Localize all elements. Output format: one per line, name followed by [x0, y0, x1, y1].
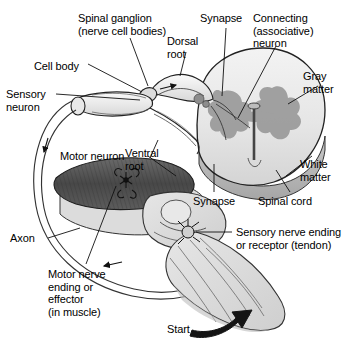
- label-spinal-cord: Spinal cord: [258, 195, 312, 208]
- label-synapse-top: Synapse: [200, 12, 242, 25]
- axon-direction-arrow-2: [104, 262, 122, 266]
- label-ventral-root: Ventral root: [125, 147, 159, 172]
- label-dorsal-root: Dorsal root: [167, 35, 198, 60]
- diagram-canvas: Spinal ganglion (nerve cell bodies) Cell…: [0, 0, 349, 348]
- label-start: Start: [167, 323, 190, 336]
- central-canal-head: [248, 103, 260, 109]
- patella: [161, 200, 191, 224]
- label-spinal-ganglion: Spinal ganglion (nerve cell bodies): [78, 12, 166, 37]
- label-sensory-neuron: Sensory neuron: [6, 88, 46, 113]
- label-cell-body: Cell body: [34, 60, 79, 73]
- label-sensory-nerve-ending: Sensory nerve ending or receptor (tendon…: [236, 226, 341, 251]
- label-synapse-bottom: Synapse: [193, 195, 235, 208]
- label-axon: Axon: [10, 232, 35, 245]
- label-motor-neuron: Motor neuron: [60, 150, 124, 163]
- label-white-matter: White matter: [300, 158, 331, 183]
- label-gray-matter: Gray matter: [303, 70, 334, 95]
- label-motor-nerve-ending: Motor nerve ending or effector (in muscl…: [48, 268, 106, 318]
- label-connecting-neuron: Connecting (associative) neuron: [253, 12, 313, 50]
